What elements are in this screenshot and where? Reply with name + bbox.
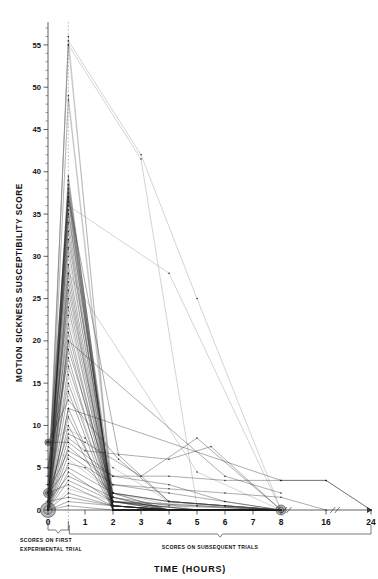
series-point — [140, 158, 142, 160]
series-point — [84, 450, 86, 452]
series-point — [112, 492, 114, 494]
series-point — [68, 492, 70, 494]
series-point — [210, 446, 212, 448]
series-point — [68, 357, 70, 359]
series-point — [112, 484, 114, 486]
series-line — [48, 375, 281, 510]
series-point — [68, 497, 70, 499]
series-point — [68, 467, 70, 469]
series-point — [68, 488, 70, 490]
series-point — [68, 205, 70, 207]
series-point — [68, 99, 70, 101]
series-point — [68, 484, 70, 486]
series-line — [48, 214, 281, 510]
annotation-brace — [48, 521, 68, 533]
series-point — [224, 492, 226, 494]
series-lines — [47, 36, 372, 511]
series-point — [168, 484, 170, 486]
series-point — [68, 382, 70, 384]
series-line — [48, 184, 281, 510]
x-tick-label: 7 — [251, 517, 256, 527]
series-point — [68, 239, 70, 241]
series-point — [68, 442, 70, 444]
y-tick-label: 50 — [33, 83, 41, 92]
series-point — [68, 340, 70, 342]
series-point — [68, 264, 70, 266]
series-point — [196, 437, 198, 439]
series-line — [48, 239, 281, 510]
series-point — [68, 471, 70, 473]
y-tick-label: 40 — [33, 167, 41, 176]
series-point — [280, 492, 282, 494]
series-point — [224, 505, 226, 507]
y-tick-label: 10 — [33, 421, 41, 430]
series-point — [118, 454, 120, 456]
series-point — [68, 505, 70, 507]
series-point — [68, 272, 70, 274]
series-point — [224, 509, 226, 511]
series-point — [68, 433, 70, 435]
x-tick-label: 2 — [111, 517, 116, 527]
series-point — [140, 154, 142, 156]
series-point — [68, 374, 70, 376]
series-point — [68, 450, 70, 452]
series-point — [68, 306, 70, 308]
series-point — [84, 437, 86, 439]
y-tick-label: 35 — [33, 210, 42, 219]
series-point — [68, 256, 70, 258]
series-point — [68, 289, 70, 291]
y-tick-label: 45 — [33, 125, 42, 134]
series-point — [112, 501, 114, 503]
y-axis-title: MOTION SICKNESS SUSCEPTIBILITY SCORE — [15, 183, 24, 382]
figure-motion-sickness-chart: MOTION SICKNESS SUSCEPTIBILITY SCORE 051… — [0, 0, 378, 579]
series-line — [48, 41, 281, 510]
series-point — [112, 467, 114, 469]
series-point — [196, 298, 198, 300]
y-tick-label: 30 — [33, 252, 41, 261]
series-point — [112, 505, 114, 507]
series-point — [168, 492, 170, 494]
chart-canvas: MOTION SICKNESS SUSCEPTIBILITY SCORE 051… — [0, 0, 378, 579]
series-point — [112, 475, 114, 477]
series-point — [68, 95, 70, 97]
series-point — [370, 509, 372, 511]
series-point — [84, 442, 86, 444]
series-point — [68, 332, 70, 334]
series-point — [325, 509, 327, 511]
y-tick-label: 55 — [33, 41, 42, 50]
x-tick-label: 1 — [83, 517, 88, 527]
series-point — [168, 509, 170, 511]
series-point — [68, 399, 70, 401]
series-point — [47, 484, 49, 486]
series-point — [68, 416, 70, 418]
series-point — [68, 247, 70, 249]
series-point — [68, 425, 70, 427]
series-line — [48, 383, 281, 510]
series-point — [224, 475, 226, 477]
series-point — [168, 501, 170, 503]
series-line — [48, 438, 281, 510]
series-point — [68, 480, 70, 482]
series-point — [68, 349, 70, 351]
series-point — [84, 467, 86, 469]
series-point — [68, 36, 70, 38]
series-point — [68, 323, 70, 325]
series-point — [47, 475, 49, 477]
series-point — [68, 201, 70, 203]
series-point — [68, 175, 70, 177]
x-tick-label: 4 — [167, 517, 172, 527]
series-point — [47, 467, 49, 469]
series-point — [68, 446, 70, 448]
series-line — [48, 45, 281, 510]
series-line — [48, 472, 281, 510]
series-point — [168, 488, 170, 490]
caption-first-trial-line1: SCORES ON FIRST — [20, 537, 72, 543]
y-tick-label: 25 — [33, 294, 42, 303]
series-point — [68, 196, 70, 198]
series-point — [68, 391, 70, 393]
series-point — [68, 230, 70, 232]
y-tick-label: 5 — [37, 463, 42, 472]
series-point — [68, 475, 70, 477]
series-point — [68, 429, 70, 431]
series-point — [196, 471, 198, 473]
